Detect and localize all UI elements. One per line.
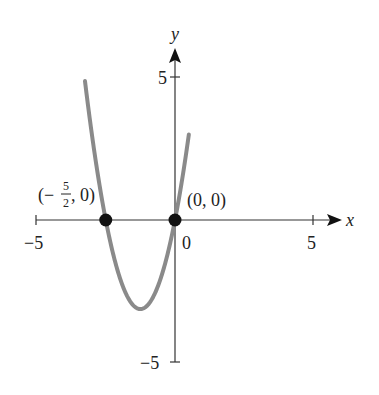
point-neg-five-halves — [99, 214, 112, 227]
point-label-left-numerator: 5 — [63, 179, 69, 193]
y-tick-label-pos5: 5 — [158, 68, 167, 88]
point-label-left-close: , 0) — [71, 185, 95, 206]
parabola-graph: y x −5 5 0 5 −5 (0, 0) (− 5 2 , 0) — [0, 0, 379, 395]
parabola-curve — [85, 81, 189, 309]
x-axis-label: x — [345, 210, 354, 230]
point-label-left-open: (− — [38, 185, 54, 206]
y-axis-label: y — [169, 24, 179, 44]
x-tick-label-neg5: −5 — [24, 233, 43, 253]
point-label-origin: (0, 0) — [187, 190, 226, 211]
y-tick-label-neg5: −5 — [140, 353, 159, 373]
point-label-neg-five-halves: (− 5 2 , 0) — [38, 179, 95, 210]
origin-label: 0 — [182, 233, 191, 253]
point-origin — [169, 214, 182, 227]
point-label-left-denominator: 2 — [63, 196, 69, 210]
x-tick-label-pos5: 5 — [307, 233, 316, 253]
